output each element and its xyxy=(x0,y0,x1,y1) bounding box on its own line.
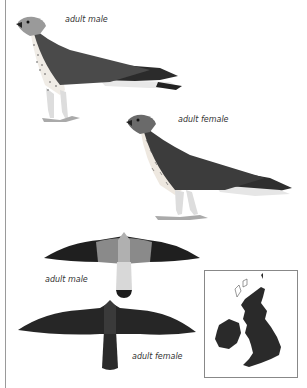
label-flight-male: adult male xyxy=(45,275,88,284)
label-perched-female: adult female xyxy=(178,115,229,124)
perched-male-illustration xyxy=(16,17,182,122)
label-flight-female: adult female xyxy=(132,352,183,361)
distribution-map xyxy=(204,270,298,378)
flight-male-illustration xyxy=(44,232,200,298)
field-guide-plate: adult male adult female adult male adult… xyxy=(0,0,307,388)
perched-female-illustration xyxy=(126,115,292,220)
british-isles-map xyxy=(205,271,297,377)
label-perched-male: adult male xyxy=(65,15,108,24)
